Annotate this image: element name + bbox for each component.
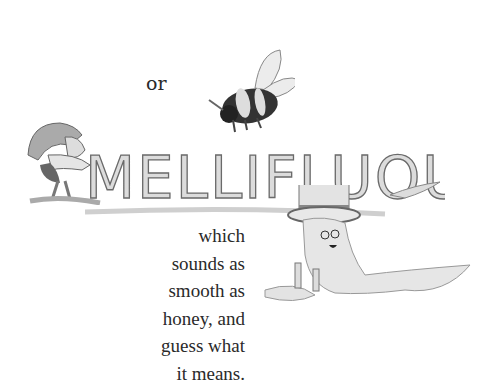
body-line: honey, and <box>161 305 245 333</box>
word-or: or <box>146 72 167 94</box>
body-text: which sounds as smooth as honey, and gue… <box>161 222 245 387</box>
body-line: guess what <box>161 332 245 360</box>
body-line: sounds as <box>161 250 245 278</box>
body-line: it means. <box>161 360 245 388</box>
body-line: smooth as <box>161 277 245 305</box>
honey-character-with-top-hat <box>255 185 480 310</box>
body-line: which <box>161 222 245 250</box>
bee-illustration <box>205 48 295 138</box>
